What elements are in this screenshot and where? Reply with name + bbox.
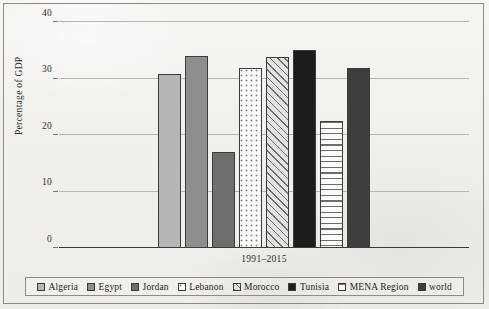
bar-jordan	[212, 152, 236, 248]
y-tick-mark	[53, 191, 58, 192]
y-tick-label: 30	[42, 64, 52, 74]
y-tick-mark	[53, 247, 58, 248]
legend-swatch-icon	[37, 283, 45, 291]
plot-area: 010203040	[59, 22, 469, 248]
bar-tunisia	[293, 50, 317, 248]
legend-swatch-icon	[87, 283, 95, 291]
legend-label: world	[429, 282, 452, 292]
legend-swatch-icon	[131, 283, 139, 291]
legend-label: Jordan	[143, 282, 169, 292]
y-tick-mark	[53, 78, 58, 79]
bar-morocco	[266, 57, 290, 248]
legend-item-tunisia: Tunisia	[288, 282, 329, 292]
legend-item-world: world	[418, 282, 452, 292]
legend-label: MENA Region	[350, 282, 409, 292]
chart-legend: AlgeriaEgyptJordanLebanonMoroccoTunisiaM…	[25, 277, 464, 296]
x-axis-category-label: 1991–2015	[59, 254, 469, 264]
y-tick-label: 40	[42, 8, 52, 18]
bar-algeria	[158, 74, 182, 248]
legend-label: Tunisia	[300, 282, 329, 292]
y-tick-mark	[53, 134, 58, 135]
chart-figure: Percentage of GDP 010203040 1991–2015 Al…	[0, 0, 489, 309]
legend-label: Egypt	[99, 282, 122, 292]
y-tick-label: 0	[47, 234, 52, 244]
y-tick-label: 20	[42, 121, 52, 131]
y-tick-label: 10	[42, 177, 52, 187]
legend-item-lebanon: Lebanon	[178, 282, 224, 292]
bar-egypt	[185, 56, 209, 248]
legend-item-algeria: Algeria	[37, 282, 78, 292]
legend-label: Lebanon	[189, 282, 223, 292]
legend-label: Morocco	[244, 282, 279, 292]
legend-swatch-icon	[233, 283, 241, 291]
legend-label: Algeria	[49, 282, 79, 292]
legend-item-morocco: Morocco	[233, 282, 280, 292]
legend-swatch-icon	[338, 283, 346, 291]
legend-swatch-icon	[178, 283, 186, 291]
bar-series-group	[59, 22, 469, 248]
bar-mena-region	[320, 121, 344, 248]
y-axis-title: Percentage of GDP	[14, 57, 24, 135]
bar-lebanon	[239, 68, 263, 248]
legend-item-jordan: Jordan	[131, 282, 169, 292]
bar-world	[347, 68, 371, 248]
legend-item-mena-region: MENA Region	[338, 282, 408, 292]
legend-swatch-icon	[418, 283, 426, 291]
legend-swatch-icon	[288, 283, 296, 291]
y-tick-mark	[53, 21, 58, 22]
legend-item-egypt: Egypt	[87, 282, 122, 292]
